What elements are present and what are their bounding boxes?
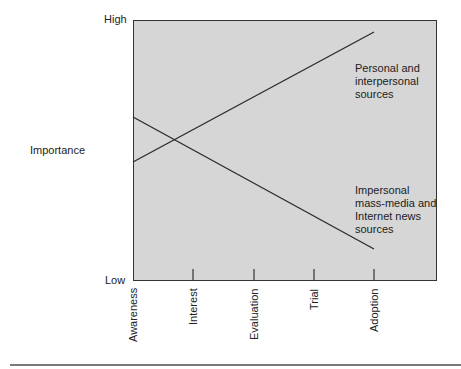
annotation-personal: Personal and interpersonal sources [355, 62, 420, 101]
x-tick-interest: Interest [187, 288, 199, 325]
series-personal-line [133, 32, 374, 162]
x-tick-awareness: Awareness [127, 288, 139, 342]
series-impersonal-line [133, 117, 374, 249]
x-tick-trial: Trial [308, 289, 320, 310]
x-axis-ticks [193, 269, 374, 281]
x-tick-evaluation: Evaluation [248, 289, 260, 340]
bottom-rule [10, 364, 461, 366]
annotation-impersonal: Impersonal mass-media and Internet news … [355, 184, 436, 236]
x-tick-adoption: Adoption [368, 289, 380, 332]
